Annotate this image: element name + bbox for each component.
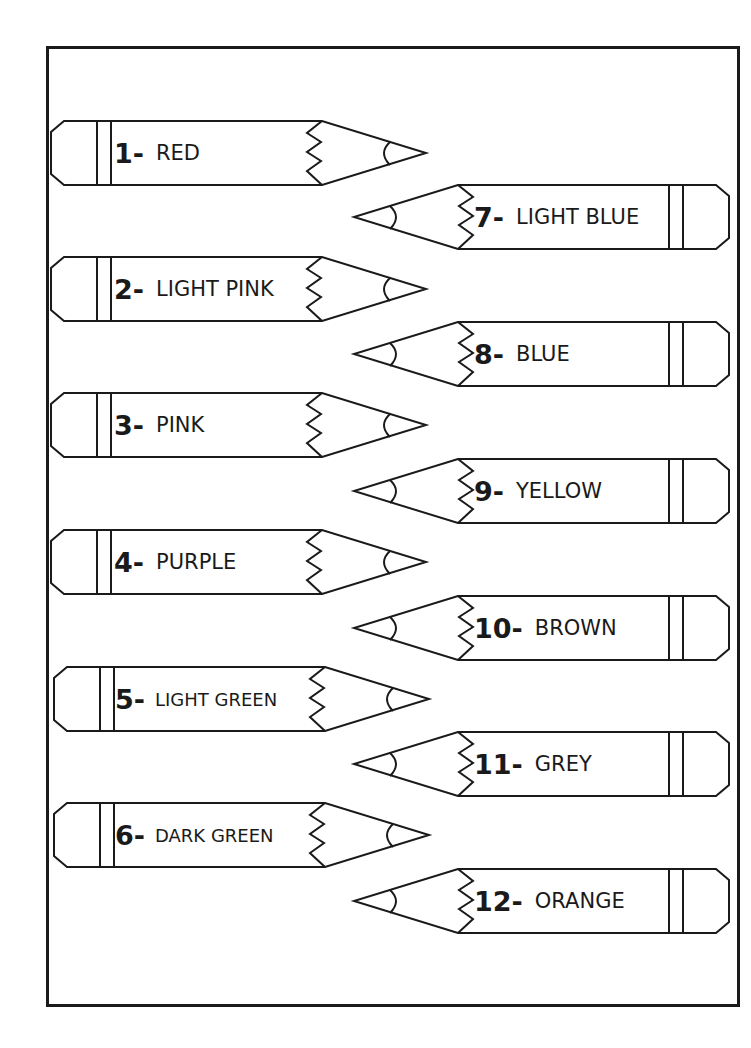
pencil-color-name: LIGHT GREEN	[155, 689, 277, 710]
pencil-label: 12- ORANGE	[474, 868, 625, 934]
pencil-dark-green[interactable]: 6- DARK GREEN	[53, 802, 430, 868]
pencil-red[interactable]: 1- RED	[50, 120, 427, 186]
pencil-color-name: BLUE	[516, 342, 570, 366]
pencil-color-name: RED	[156, 141, 200, 165]
pencil-orange[interactable]: 12- ORANGE	[353, 868, 730, 934]
pencil-number: 1-	[114, 138, 144, 169]
pencil-number: 9-	[474, 476, 504, 507]
pencil-color-name: LIGHT PINK	[156, 277, 274, 301]
pencil-color-name: GREY	[535, 752, 592, 776]
pencil-grey[interactable]: 11- GREY	[353, 731, 730, 797]
pencil-number: 11-	[474, 749, 523, 780]
pencil-label: 3- PINK	[114, 392, 204, 458]
pencil-color-name: PURPLE	[156, 550, 236, 574]
pencil-label: 2- LIGHT PINK	[114, 256, 274, 322]
pencil-number: 4-	[114, 547, 144, 578]
pencil-light-green[interactable]: 5- LIGHT GREEN	[53, 666, 430, 732]
pencil-number: 8-	[474, 339, 504, 370]
pencil-color-name: PINK	[156, 413, 204, 437]
pencil-label: 11- GREY	[474, 731, 592, 797]
pencil-brown[interactable]: 10- BROWN	[353, 595, 730, 661]
pencil-label: 10- BROWN	[474, 595, 617, 661]
pencil-number: 5-	[115, 684, 145, 715]
pencil-label: 5- LIGHT GREEN	[115, 666, 277, 732]
pencil-label: 9- YELLOW	[474, 458, 602, 524]
pencil-number: 2-	[114, 274, 144, 305]
pencil-number: 6-	[115, 820, 145, 851]
pencil-number: 7-	[474, 202, 504, 233]
pencil-color-name: YELLOW	[516, 479, 602, 503]
pencil-label: 6- DARK GREEN	[115, 802, 274, 868]
pencil-color-name: ORANGE	[535, 889, 625, 913]
pencil-number: 12-	[474, 886, 523, 917]
pencil-number: 3-	[114, 410, 144, 441]
pencil-blue[interactable]: 8- BLUE	[353, 321, 730, 387]
pencil-light-blue[interactable]: 7- LIGHT BLUE	[353, 184, 730, 250]
pencil-pink[interactable]: 3- PINK	[50, 392, 427, 458]
pencil-number: 10-	[474, 613, 523, 644]
pencil-yellow[interactable]: 9- YELLOW	[353, 458, 730, 524]
pencil-right-outline-icon	[50, 529, 427, 595]
pencil-color-name: DARK GREEN	[155, 825, 274, 846]
pencil-label: 4- PURPLE	[114, 529, 236, 595]
pencil-right-outline-icon	[50, 120, 427, 186]
pencil-color-name: BROWN	[535, 616, 617, 640]
pencil-right-outline-icon	[50, 392, 427, 458]
pencil-label: 8- BLUE	[474, 321, 570, 387]
pencil-label: 7- LIGHT BLUE	[474, 184, 639, 250]
pencil-color-name: LIGHT BLUE	[516, 205, 639, 229]
pencil-label: 1- RED	[114, 120, 200, 186]
pencil-light-pink[interactable]: 2- LIGHT PINK	[50, 256, 427, 322]
pencil-purple[interactable]: 4- PURPLE	[50, 529, 427, 595]
